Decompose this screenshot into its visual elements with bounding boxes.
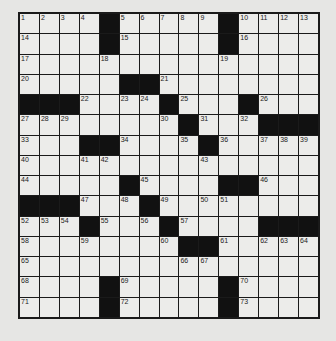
grid-cell[interactable]: 37 [259,136,278,155]
grid-cell[interactable] [179,75,198,94]
grid-cell[interactable] [279,55,298,74]
grid-cell[interactable]: 25 [179,95,198,114]
grid-cell[interactable] [239,75,258,94]
grid-cell[interactable] [60,237,79,256]
grid-cell[interactable] [279,34,298,53]
grid-cell[interactable]: 52 [20,217,39,236]
grid-cell[interactable] [239,217,258,236]
grid-cell[interactable] [179,176,198,195]
grid-cell[interactable] [259,277,278,296]
grid-cell[interactable] [199,217,218,236]
grid-cell[interactable] [299,196,318,215]
grid-cell[interactable]: 24 [140,95,159,114]
grid-cell[interactable]: 45 [140,176,159,195]
grid-cell[interactable] [60,257,79,276]
grid-cell[interactable] [219,217,238,236]
grid-cell[interactable] [40,136,59,155]
grid-cell[interactable] [239,196,258,215]
grid-cell[interactable]: 31 [199,115,218,134]
grid-cell[interactable] [100,196,119,215]
grid-cell[interactable]: 43 [199,156,218,175]
grid-cell[interactable] [179,55,198,74]
grid-cell[interactable] [299,75,318,94]
grid-cell[interactable] [279,298,298,317]
grid-cell[interactable] [239,156,258,175]
grid-cell[interactable]: 27 [20,115,39,134]
grid-cell[interactable]: 57 [179,217,198,236]
grid-cell[interactable] [160,176,179,195]
grid-cell[interactable] [100,176,119,195]
grid-cell[interactable] [60,298,79,317]
grid-cell[interactable] [279,196,298,215]
grid-cell[interactable] [160,156,179,175]
grid-cell[interactable]: 12 [279,14,298,33]
grid-cell[interactable] [60,55,79,74]
grid-cell[interactable]: 36 [219,136,238,155]
grid-cell[interactable] [259,75,278,94]
grid-cell[interactable] [100,75,119,94]
grid-cell[interactable] [239,136,258,155]
grid-cell[interactable] [199,277,218,296]
grid-cell[interactable] [80,75,99,94]
grid-cell[interactable] [219,75,238,94]
grid-cell[interactable] [259,257,278,276]
grid-cell[interactable]: 21 [160,75,179,94]
grid-cell[interactable] [160,298,179,317]
grid-cell[interactable] [279,95,298,114]
grid-cell[interactable]: 65 [20,257,39,276]
grid-cell[interactable]: 68 [20,277,39,296]
grid-cell[interactable]: 40 [20,156,39,175]
grid-cell[interactable]: 16 [239,34,258,53]
grid-cell[interactable] [299,95,318,114]
grid-cell[interactable]: 67 [199,257,218,276]
grid-cell[interactable] [140,55,159,74]
grid-cell[interactable]: 35 [179,136,198,155]
grid-cell[interactable] [100,257,119,276]
grid-cell[interactable]: 70 [239,277,258,296]
grid-cell[interactable] [160,257,179,276]
grid-cell[interactable] [279,156,298,175]
grid-cell[interactable] [60,34,79,53]
grid-cell[interactable] [40,277,59,296]
grid-cell[interactable] [219,257,238,276]
grid-cell[interactable] [160,136,179,155]
grid-cell[interactable] [40,55,59,74]
grid-cell[interactable]: 54 [60,217,79,236]
grid-cell[interactable] [80,115,99,134]
grid-cell[interactable] [60,277,79,296]
grid-cell[interactable] [80,298,99,317]
grid-cell[interactable]: 55 [100,217,119,236]
grid-cell[interactable] [140,237,159,256]
grid-cell[interactable] [259,196,278,215]
grid-cell[interactable]: 18 [100,55,119,74]
grid-cell[interactable] [140,257,159,276]
grid-cell[interactable]: 41 [80,156,99,175]
grid-cell[interactable]: 15 [120,34,139,53]
grid-cell[interactable] [199,95,218,114]
grid-cell[interactable] [299,55,318,74]
grid-cell[interactable]: 66 [179,257,198,276]
grid-cell[interactable]: 2 [40,14,59,33]
grid-cell[interactable] [239,55,258,74]
grid-cell[interactable] [100,95,119,114]
grid-cell[interactable] [120,55,139,74]
grid-cell[interactable] [80,55,99,74]
grid-cell[interactable] [140,298,159,317]
grid-cell[interactable]: 33 [20,136,39,155]
grid-cell[interactable] [120,115,139,134]
grid-cell[interactable] [279,176,298,195]
grid-cell[interactable] [120,217,139,236]
grid-cell[interactable] [160,55,179,74]
grid-cell[interactable] [120,237,139,256]
grid-cell[interactable] [80,34,99,53]
grid-cell[interactable] [140,277,159,296]
grid-cell[interactable]: 56 [140,217,159,236]
grid-cell[interactable]: 59 [80,237,99,256]
grid-cell[interactable]: 23 [120,95,139,114]
grid-cell[interactable]: 29 [60,115,79,134]
grid-cell[interactable]: 10 [239,14,258,33]
grid-cell[interactable]: 48 [120,196,139,215]
grid-cell[interactable] [160,34,179,53]
grid-cell[interactable] [259,156,278,175]
grid-cell[interactable] [259,55,278,74]
